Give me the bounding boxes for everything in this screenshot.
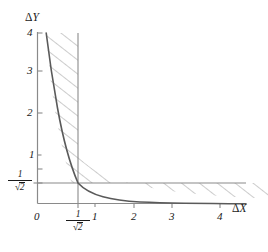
x-tick-label-one-over-sqrt2: 1 √2 [66,210,90,233]
y-tick-label-2: 2 [27,107,33,118]
y-tick-label-one-over-sqrt2: 1 √2 [8,170,32,193]
x-tick-label-3: 3 [169,211,175,222]
hyperbola-uncertainty-plot: ΔY ΔX 4 3 2 1 1 √2 0 1 2 3 4 1 √2 [0,0,268,252]
x-tick-label-0: 0 [34,211,40,222]
y-axis-title: ΔY [25,12,39,24]
y-tick-label-4: 4 [27,27,33,38]
x-tick-label-1: 1 [92,211,98,222]
y-tick-label-1: 1 [29,149,35,160]
x-axis-title: ΔX [232,203,246,215]
x-tick-label-2: 2 [131,211,137,222]
x-tick-label-4: 4 [217,211,223,222]
y-tick-label-3: 3 [27,65,33,76]
x-axis-ticks [78,204,220,209]
